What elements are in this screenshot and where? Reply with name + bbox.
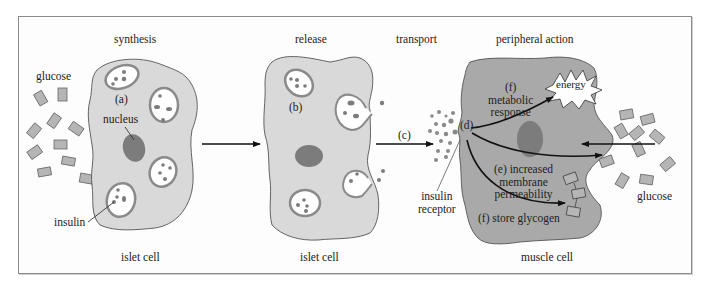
insulin-pathway-diagram (0, 0, 709, 287)
energy-label: energy (556, 78, 586, 90)
label-b: (b) (289, 101, 302, 114)
islet-cell-label-1: islet cell (121, 251, 160, 264)
label-e-2: membrane (494, 176, 553, 189)
glucose-label-right: glucose (637, 190, 672, 203)
label-metabolic: metabolic (488, 94, 533, 107)
muscle-cell-label: muscle cell (521, 251, 573, 264)
islet-cell-label-2: islet cell (300, 251, 339, 264)
membrane-permeability-label: (e) increased membrane permeability (494, 163, 553, 201)
stage-synthesis: synthesis (114, 33, 156, 46)
insulin-molecules (428, 110, 458, 162)
label-e-1: (e) increased (494, 163, 553, 176)
store-glycogen-label: (f) store glycogen (478, 212, 560, 225)
stage-release: release (295, 33, 327, 46)
glucose-molecules-left (26, 88, 93, 184)
stage-transport: transport (396, 33, 437, 46)
insulin-receptor-line2: receptor (418, 203, 456, 216)
insulin-receptor-label: insulin receptor (418, 190, 456, 215)
stage-peripheral-action: peripheral action (496, 33, 574, 46)
insulin-receptor-pointer (437, 140, 460, 191)
label-f-1: (f) (488, 81, 533, 94)
label-e-3: permeability (494, 188, 553, 201)
islet-cell-release (264, 57, 385, 241)
nucleus (295, 145, 323, 167)
label-response: response (488, 106, 533, 119)
label-a: (a) (115, 93, 128, 106)
metabolic-response-label: (f) metabolic response (488, 81, 533, 119)
insulin-receptor-line1: insulin (418, 190, 456, 203)
vesicle (150, 88, 178, 122)
nucleus-label: nucleus (103, 113, 138, 126)
label-c: (c) (398, 129, 411, 142)
islet-cell-synthesis (88, 59, 197, 230)
insulin-label: insulin (54, 216, 85, 229)
label-d: (d) (460, 119, 473, 132)
glucose-label-left: glucose (36, 70, 71, 83)
